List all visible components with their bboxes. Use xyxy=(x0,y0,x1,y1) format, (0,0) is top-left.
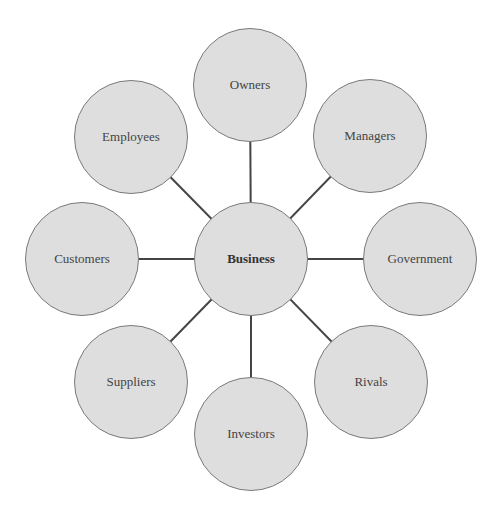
node-managers: Managers xyxy=(313,79,427,193)
node-rivals: Rivals xyxy=(314,325,428,439)
node-employees: Employees xyxy=(74,80,188,194)
node-label: Government xyxy=(388,251,453,267)
node-customers: Customers xyxy=(25,202,139,316)
node-label: Customers xyxy=(54,251,110,267)
node-government: Government xyxy=(363,202,477,316)
node-label: Investors xyxy=(227,426,275,442)
node-suppliers: Suppliers xyxy=(74,325,188,439)
node-label: Owners xyxy=(230,77,270,93)
node-business-center: Business xyxy=(194,202,308,316)
node-label: Rivals xyxy=(354,374,387,390)
node-owners: Owners xyxy=(193,28,307,142)
center-label: Business xyxy=(227,251,275,267)
node-label: Suppliers xyxy=(106,374,155,390)
node-label: Managers xyxy=(344,128,395,144)
node-label: Employees xyxy=(102,129,160,145)
node-investors: Investors xyxy=(194,377,308,491)
